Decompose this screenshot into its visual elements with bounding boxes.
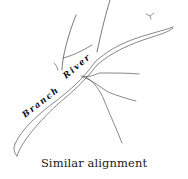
bird-icon [146,13,154,19]
branch-south [86,77,122,143]
river-bank-lower [17,28,173,156]
label-river: River [60,52,93,82]
river-bank-upper [15,27,173,144]
branch-nub [54,63,58,70]
branch-north-right [97,0,110,52]
river-diagram: Branch River [0,0,188,179]
river-mouth [14,144,17,156]
diagram-caption: Similar alignment [0,156,188,170]
label-branch: Branch [19,84,61,120]
